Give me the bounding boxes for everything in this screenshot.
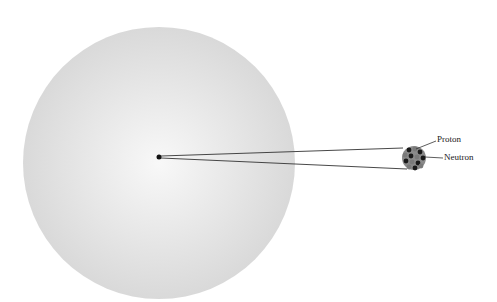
atom-diagram: [0, 0, 497, 302]
proton-label: Proton: [437, 134, 461, 144]
atom-electron-cloud: [23, 27, 295, 299]
atom-nucleus-dot: [157, 155, 162, 160]
magnified-nucleus: [402, 146, 426, 170]
proton-leader-line: [416, 141, 436, 149]
neutron-label: Neutron: [444, 152, 474, 162]
neutron-leader-line: [425, 157, 443, 158]
